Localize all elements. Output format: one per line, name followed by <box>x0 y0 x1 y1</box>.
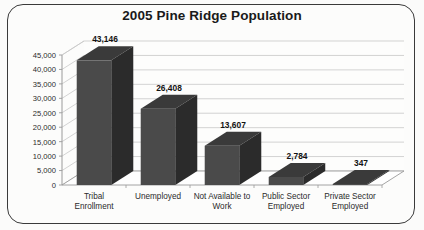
y-axis-tick-label: 0 <box>52 181 56 190</box>
x-axis-category-label: Unemployed <box>135 192 181 201</box>
y-axis-tick-label: 15,000 <box>33 138 56 147</box>
y-axis-tick-label: 10,000 <box>33 152 56 161</box>
y-axis-tick-label: 40,000 <box>33 65 56 74</box>
y-axis-tick-label: 20,000 <box>33 123 56 132</box>
chart-screenshot: 2005 Pine Ridge Population 05,00010,0001… <box>0 0 424 230</box>
x-axis-category-label: Employed <box>268 202 305 211</box>
y-axis-tick-label: 5,000 <box>37 166 56 175</box>
x-axis-category-label: Employed <box>332 202 369 211</box>
x-axis-category-label: Work <box>213 202 233 211</box>
y-axis-tick-label: 35,000 <box>33 80 56 89</box>
y-axis-tick-label: 45,000 <box>33 51 56 60</box>
bar-value-label: 347 <box>354 158 368 168</box>
x-axis-category-label: Tribal <box>84 192 104 201</box>
y-axis-tick-label: 30,000 <box>33 94 56 103</box>
bar-column <box>141 95 198 185</box>
bar-value-label: 43,146 <box>92 34 118 44</box>
bar-chart-plot: 05,00010,00015,00020,00025,00030,00035,0… <box>0 0 424 230</box>
bar-value-label: 26,408 <box>156 83 182 93</box>
x-axis-category-label: Public Sector <box>262 192 311 201</box>
bar-column <box>77 46 134 185</box>
x-axis-category-label: Enrollment <box>74 202 114 211</box>
bar-value-label: 2,784 <box>287 151 308 161</box>
x-axis-category-label: Not Available to <box>194 192 251 201</box>
bar-value-label: 13,607 <box>220 120 246 130</box>
x-axis-category-label: Private Sector <box>324 192 376 201</box>
y-axis-tick-label: 25,000 <box>33 109 56 118</box>
